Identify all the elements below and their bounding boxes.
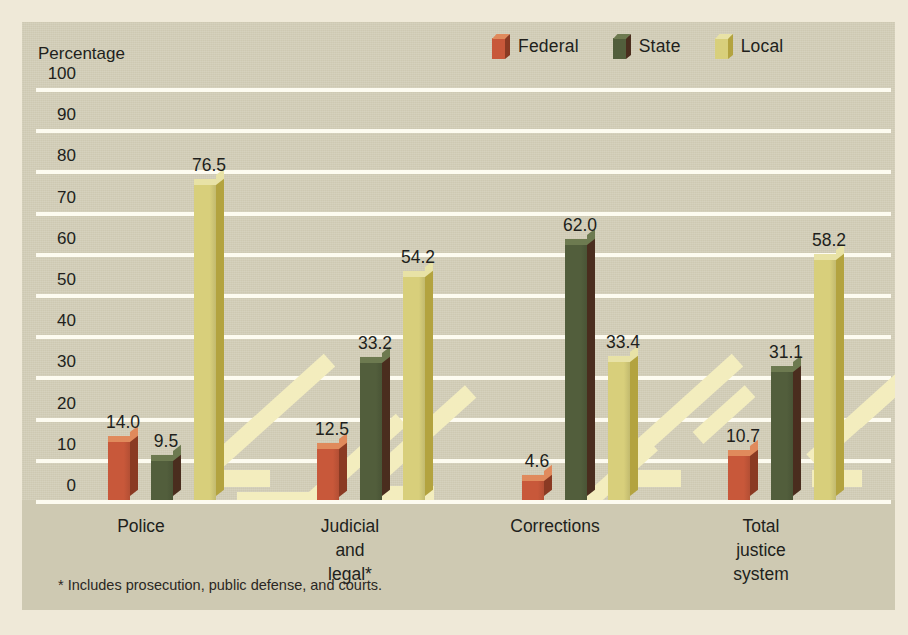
bar-local-1	[403, 271, 433, 500]
bar-top-face	[151, 455, 173, 461]
y-tick: 30	[30, 352, 76, 374]
bar-value-label: 33.2	[346, 333, 404, 354]
bar-front-face	[814, 260, 836, 500]
bar-front-face	[771, 372, 793, 500]
bar-top-face	[728, 450, 750, 456]
gridline	[36, 335, 891, 339]
bar-value-label: 10.7	[714, 426, 772, 447]
bar-federal-0	[108, 436, 138, 500]
bar-front-face	[151, 461, 173, 500]
gridline	[36, 376, 891, 380]
bar-side-face	[836, 250, 844, 496]
bar-front-face	[360, 363, 382, 500]
y-tick-label: 90	[30, 105, 76, 125]
category-label-2: Corrections	[475, 514, 635, 538]
bar-value-label: 9.5	[137, 431, 195, 452]
y-tick: 40	[30, 311, 76, 333]
y-tick-label: 70	[30, 188, 76, 208]
bar-local-0	[194, 179, 224, 500]
legend-label: Federal	[518, 36, 579, 57]
gridline	[36, 253, 891, 257]
bar-front-face	[608, 362, 630, 500]
y-tick: 100	[30, 64, 76, 86]
bar-value-label: 4.6	[508, 451, 566, 472]
y-tick-label: 50	[30, 270, 76, 290]
bar-top-face	[771, 366, 793, 372]
y-tick: 60	[30, 229, 76, 251]
gridline	[36, 212, 891, 216]
legend-cube-front	[715, 38, 728, 59]
bar-side-face	[793, 362, 801, 496]
legend-cube-icon	[492, 34, 509, 59]
figure-frame: 1009080706050403020100 Percentage Federa…	[0, 0, 908, 635]
bar-state-1	[360, 357, 390, 500]
bar-front-face	[728, 456, 750, 500]
bar-side-face	[587, 234, 595, 496]
decorative-stripe	[620, 354, 743, 467]
y-tick-label: 40	[30, 311, 76, 331]
bar-top-face	[317, 443, 339, 449]
bar-top-face	[522, 475, 544, 481]
y-tick-label: 0	[30, 476, 76, 496]
gridline	[36, 129, 891, 133]
bar-value-label: 31.1	[757, 342, 815, 363]
bar-front-face	[108, 442, 130, 500]
legend-cube-front	[613, 38, 626, 59]
legend-label: Local	[741, 36, 784, 57]
bar-top-face	[194, 179, 216, 185]
bar-front-face	[194, 185, 216, 500]
axis-baseline	[36, 500, 891, 504]
y-tick: 20	[30, 394, 76, 416]
decorative-stripe	[218, 470, 270, 487]
bar-top-face	[565, 239, 587, 245]
bar-value-label: 62.0	[551, 215, 609, 236]
y-tick: 50	[30, 270, 76, 292]
bar-top-face	[814, 254, 836, 260]
bar-value-label: 54.2	[389, 247, 447, 268]
legend-item-state: State	[613, 34, 681, 59]
gridline	[36, 170, 891, 174]
bar-local-3	[814, 254, 844, 500]
legend-item-federal: Federal	[492, 34, 579, 59]
bar-front-face	[565, 245, 587, 500]
bar-front-face	[403, 277, 425, 500]
y-tick-label: 100	[30, 64, 76, 84]
y-tick: 80	[30, 146, 76, 168]
y-tick-label: 10	[30, 435, 76, 455]
bar-state-3	[771, 366, 801, 500]
legend-cube-icon	[613, 34, 630, 59]
bar-front-face	[317, 449, 339, 501]
y-tick-label: 20	[30, 394, 76, 414]
y-axis-title: Percentage	[38, 44, 125, 64]
bar-top-face	[608, 356, 630, 362]
y-tick: 90	[30, 105, 76, 127]
category-label-1: Judicial and legal*	[270, 514, 430, 586]
bar-federal-2	[522, 475, 552, 500]
bar-value-label: 33.4	[594, 332, 652, 353]
bar-value-label: 76.5	[180, 155, 238, 176]
bar-side-face	[382, 353, 390, 496]
legend-label: State	[639, 36, 681, 57]
y-tick: 70	[30, 188, 76, 210]
category-label-3: Total justice system	[681, 514, 841, 586]
y-tick-label: 30	[30, 352, 76, 372]
bar-top-face	[108, 436, 130, 442]
bar-local-2	[608, 356, 638, 500]
bar-value-label: 58.2	[800, 230, 858, 251]
bar-side-face	[425, 266, 433, 496]
y-tick-label: 60	[30, 229, 76, 249]
legend: FederalStateLocal	[492, 34, 783, 59]
gridline	[36, 418, 891, 422]
legend-cube-icon	[715, 34, 732, 59]
gridline	[36, 88, 891, 92]
y-tick-label: 80	[30, 146, 76, 166]
bar-side-face	[216, 175, 224, 496]
chart-panel: 1009080706050403020100 Percentage Federa…	[22, 22, 895, 610]
bar-top-face	[360, 357, 382, 363]
y-tick: 10	[30, 435, 76, 457]
legend-item-local: Local	[715, 34, 784, 59]
bar-value-label: 12.5	[303, 419, 361, 440]
category-label-0: Police	[61, 514, 221, 538]
gridline	[36, 294, 891, 298]
footnote: * Includes prosecution, public defense, …	[58, 577, 382, 593]
